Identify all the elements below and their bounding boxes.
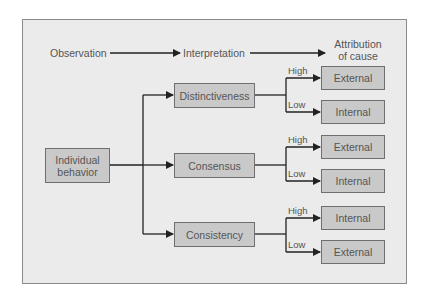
consensus-high-label: High (288, 134, 308, 145)
observation-label: Observation (50, 47, 107, 59)
consensus-high-result: External (321, 135, 385, 159)
interpretation-label: Interpretation (183, 47, 245, 59)
consensus-box: Consensus (174, 153, 255, 178)
attribution-line2: of cause (327, 50, 389, 62)
consistency-low-label: Low (288, 239, 305, 250)
distinctiveness-high-result: External (321, 66, 385, 90)
distinctiveness-high-label: High (288, 65, 308, 76)
consistency-high-result: Internal (321, 206, 385, 230)
consistency-low-result: External (321, 240, 385, 264)
distinctiveness-low-label: Low (288, 99, 305, 110)
attribution-label: Attribution of cause (327, 38, 389, 62)
distinctiveness-low-result: Internal (321, 100, 385, 124)
individual-behavior-box: Individual behavior (45, 148, 110, 183)
consensus-low-label: Low (288, 168, 305, 179)
consistency-box: Consistency (174, 222, 255, 247)
source-line2: behavior (57, 166, 97, 178)
source-line1: Individual (55, 154, 99, 166)
distinctiveness-box: Distinctiveness (174, 83, 255, 108)
consensus-low-result: Internal (321, 169, 385, 193)
attribution-line1: Attribution (327, 38, 389, 50)
consistency-high-label: High (288, 205, 308, 216)
